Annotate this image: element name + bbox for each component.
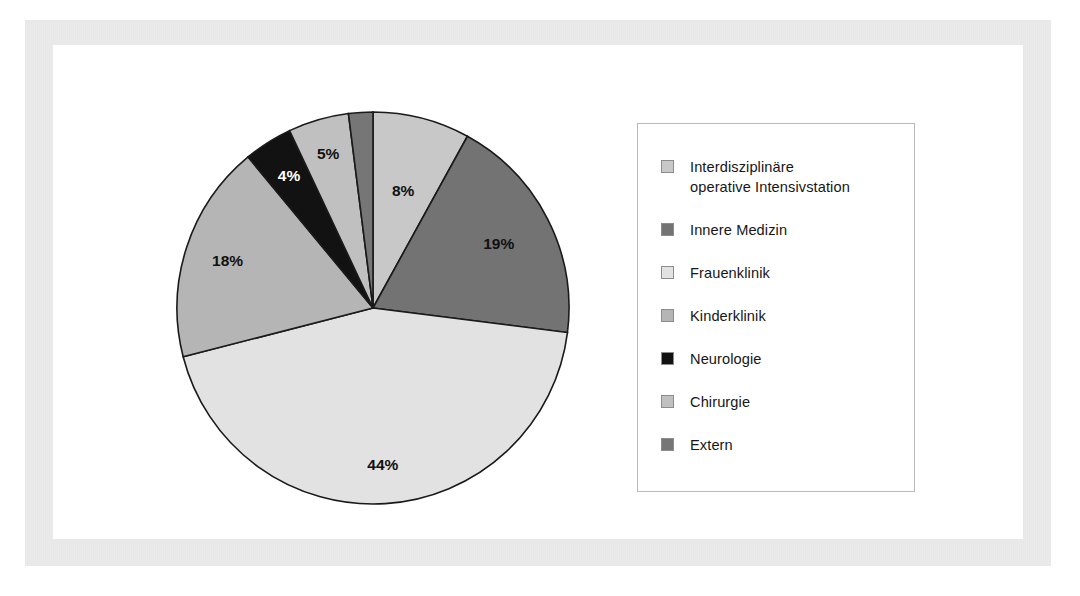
legend-label: Chirurgie [690, 392, 750, 412]
legend-swatch-extern [661, 438, 674, 451]
legend-row[interactable]: Extern [661, 435, 904, 455]
legend-swatch-interdisziplinaere-operative-intensivstation [661, 160, 674, 173]
legend-swatch-neurologie [661, 352, 674, 365]
legend-label: Kinderklinik [690, 306, 766, 326]
legend-label: Interdisziplinäre operative Intensivstat… [690, 157, 850, 197]
legend-row[interactable]: Innere Medizin [661, 220, 904, 240]
legend-swatch-chirurgie [661, 395, 674, 408]
legend-row[interactable]: Chirurgie [661, 392, 904, 412]
pie-chart-svg: 8%19%44%18%4%5%2% [173, 108, 573, 508]
legend-swatch-innere-medizin [661, 223, 674, 236]
legend-row[interactable]: Neurologie [661, 349, 904, 369]
pie-slice-label: 4% [278, 167, 301, 184]
legend-row[interactable]: Frauenklinik [661, 263, 904, 283]
legend-label: Innere Medizin [690, 220, 787, 240]
legend-swatch-frauenklinik [661, 266, 674, 279]
pie-slice-label: 18% [212, 252, 243, 269]
legend-label: Extern [690, 435, 733, 455]
legend-box: Interdisziplinäre operative Intensivstat… [637, 123, 915, 492]
figure-root: 8%19%44%18%4%5%2% Interdisziplinäre oper… [0, 0, 1080, 596]
legend-label: Neurologie [690, 349, 762, 369]
legend-row[interactable]: Interdisziplinäre operative Intensivstat… [661, 157, 904, 197]
legend-label: Frauenklinik [690, 263, 770, 283]
pie-slice-label: 19% [483, 235, 514, 252]
pie-slice-label: 44% [367, 456, 398, 473]
pie-slice-label: 8% [392, 182, 415, 199]
legend-row[interactable]: Kinderklinik [661, 306, 904, 326]
legend-list: Interdisziplinäre operative Intensivstat… [661, 157, 904, 455]
figure-plate: 8%19%44%18%4%5%2% Interdisziplinäre oper… [53, 45, 1023, 539]
pie-slices-group [177, 112, 569, 504]
pie-chart: 8%19%44%18%4%5%2% [173, 108, 573, 508]
legend-swatch-kinderklinik [661, 309, 674, 322]
pie-slice-label: 5% [317, 145, 340, 162]
